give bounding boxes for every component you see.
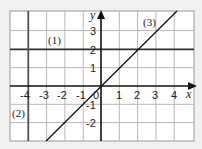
y-axis-label: y [89,8,96,22]
svg-text:-1: -1 [76,89,86,101]
line-1-label: (1) [48,34,61,47]
svg-text:3: 3 [152,89,158,101]
svg-text:-4: -4 [20,89,30,101]
svg-text:-3: -3 [39,89,49,101]
svg-text:-1: -1 [86,99,96,111]
svg-text:-2: -2 [86,117,96,129]
svg-text:1: 1 [90,62,96,74]
svg-text:-2: -2 [57,89,67,101]
x-axis-label: x [185,87,192,101]
x-tick-labels: -4 -3 -2 -1 0 1 2 3 4 [20,89,177,101]
line-2-label: (2) [12,107,25,120]
svg-text:2: 2 [90,44,96,56]
svg-text:1: 1 [116,89,122,101]
svg-text:2: 2 [134,89,140,101]
line-3-label: (3) [143,16,156,29]
coordinate-plane: x y -4 -3 -2 -1 0 1 2 3 4 3 2 1 -1 -2 (1… [0,0,202,149]
svg-text:4: 4 [171,89,177,101]
svg-text:3: 3 [90,25,96,37]
